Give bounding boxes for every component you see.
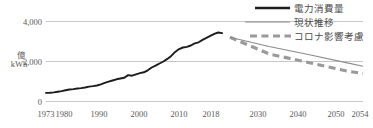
x-tick-label-1980: 1980 bbox=[56, 109, 73, 119]
electricity-consumption-chart: 4,000 2,000 0 億 kWh 1973 1980 1990 2000 … bbox=[0, 0, 373, 128]
y-tick-label-0: 0 bbox=[38, 97, 42, 107]
x-tick-label-2000: 2000 bbox=[131, 109, 148, 119]
y-tick-label-4000: 4,000 bbox=[23, 17, 42, 27]
x-tick-label-2018: 2018 bbox=[203, 109, 220, 119]
legend-label-baseline: 現状推移 bbox=[294, 17, 334, 28]
x-tick-label-2030: 2030 bbox=[250, 109, 267, 119]
x-axis-ticks: 1973 1980 1990 2000 2010 2018 2030 2040 … bbox=[38, 109, 370, 119]
series-line-baseline bbox=[230, 37, 363, 66]
legend-label-corona: コロナ影響考慮 bbox=[294, 31, 364, 42]
series-line-actual bbox=[46, 33, 222, 93]
series-line-corona bbox=[230, 37, 363, 73]
chart-legend: 電力消費量 現状推移 コロナ影響考慮 bbox=[245, 3, 364, 42]
x-tick-label-1990: 1990 bbox=[91, 109, 108, 119]
y-axis-unit-line-2: kWh bbox=[11, 59, 28, 69]
x-tick-label-1973: 1973 bbox=[38, 109, 55, 119]
x-tick-label-2054: 2054 bbox=[352, 109, 370, 119]
x-tick-label-2010: 2010 bbox=[171, 109, 188, 119]
chart-figure: 4,000 2,000 0 億 kWh 1973 1980 1990 2000 … bbox=[0, 0, 373, 128]
x-tick-label-2050: 2050 bbox=[328, 109, 345, 119]
legend-label-actual: 電力消費量 bbox=[294, 3, 344, 14]
data-series bbox=[46, 33, 363, 93]
x-tick-label-2040: 2040 bbox=[290, 109, 307, 119]
y-axis-unit-label: 億 kWh bbox=[11, 50, 28, 69]
